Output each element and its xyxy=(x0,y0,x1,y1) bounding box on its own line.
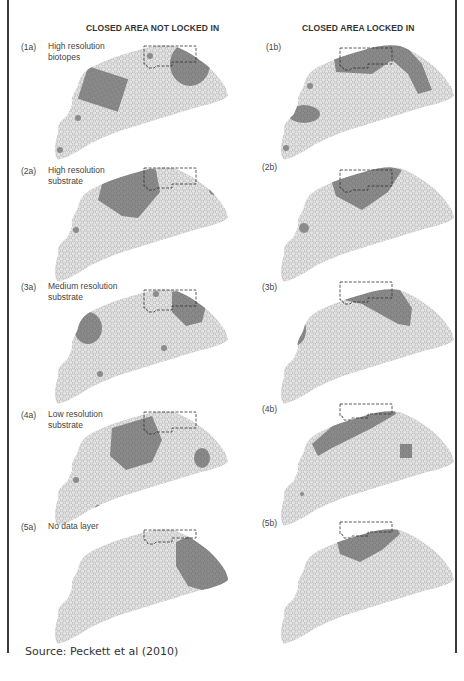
hex-map-3b xyxy=(232,278,457,406)
panel-label: (5a) xyxy=(21,522,36,532)
column-title-not-locked: CLOSED AREA NOT LOCKED IN xyxy=(86,23,219,33)
map-panel-2a: (2a) High resolution substrate xyxy=(6,156,231,284)
source-citation: Source: Peckett et al (2010) xyxy=(25,645,178,658)
hex-map-2b xyxy=(232,156,457,284)
panel-description: High resolution biotopes xyxy=(48,41,138,63)
panel-label: (5b) xyxy=(262,518,277,528)
map-panel-1b: (1b) xyxy=(232,34,457,162)
map-panel-4a: (4a) Low resolution substrate xyxy=(6,400,231,528)
panel-label: (2a) xyxy=(21,166,36,176)
map-panel-5a: (5a) No data layer xyxy=(6,518,231,646)
hex-map-4b xyxy=(232,400,457,528)
panel-label: (1b) xyxy=(266,42,281,52)
panel-description: No data layer xyxy=(48,521,138,532)
panel-label: (4a) xyxy=(21,410,36,420)
map-panel-3a: (3a) Medium resolution substrate xyxy=(6,278,231,406)
hex-map-5b xyxy=(232,518,457,646)
hex-map-1b xyxy=(232,34,457,162)
map-panel-4b: (4b) xyxy=(232,400,457,528)
panel-label: (1a) xyxy=(21,42,36,52)
map-panel-1a: (1a) High resolution biotopes xyxy=(6,34,231,162)
panel-label: (2b) xyxy=(262,162,277,172)
map-panel-3b: (3b) xyxy=(232,278,457,406)
column-title-locked: CLOSED AREA LOCKED IN xyxy=(302,23,414,33)
panel-description: Low resolution substrate xyxy=(48,409,138,431)
panel-label: (3b) xyxy=(262,282,277,292)
panel-description: Medium resolution substrate xyxy=(48,281,138,303)
hex-map-5a xyxy=(6,518,231,646)
map-panel-2b: (2b) xyxy=(232,156,457,284)
panel-label: (3a) xyxy=(21,282,36,292)
panel-label: (4b) xyxy=(262,404,277,414)
map-panel-5b: (5b) xyxy=(232,518,457,646)
panel-description: High resolution substrate xyxy=(48,165,138,187)
